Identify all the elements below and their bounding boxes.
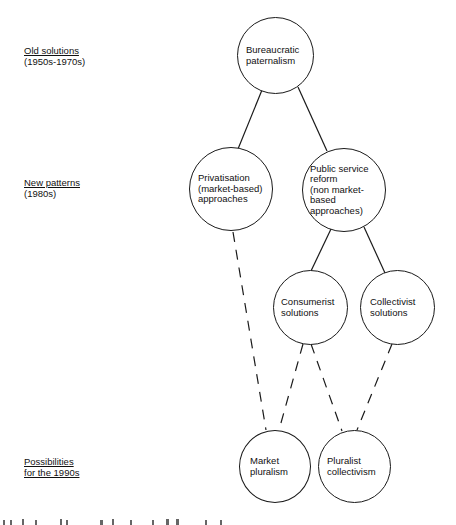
era-subtitle-future: for the 1990s bbox=[24, 467, 79, 478]
era-subtitle-old: (1950s-1970s) bbox=[24, 56, 85, 67]
edge-collectivist-pluralist-collectivism bbox=[357, 344, 392, 430]
node-pluralist-collectivism: Pluralist collectivism bbox=[318, 430, 391, 503]
node-label: Consumerist solutions bbox=[281, 297, 334, 318]
era-label-old: Old solutions (1950s-1970s) bbox=[24, 45, 85, 67]
node-label: Market pluralism bbox=[250, 456, 288, 477]
node-label: Bureaucratic paternalism bbox=[246, 45, 299, 66]
node-consumerist-solutions: Consumerist solutions bbox=[273, 270, 348, 345]
edge-consumerist-market-pluralism bbox=[279, 344, 303, 430]
era-title-future: Possibilities bbox=[24, 456, 79, 467]
node-public-service-reform: Public service reform (non market- based… bbox=[302, 148, 386, 232]
edge-privatisation-market-pluralism bbox=[233, 232, 266, 430]
node-label: Collectivist solutions bbox=[370, 297, 415, 318]
node-privatisation: Privatisation (market-based) approaches bbox=[189, 147, 273, 231]
era-label-future: Possibilities for the 1990s bbox=[24, 456, 79, 478]
node-label: Privatisation (market-based) approaches bbox=[198, 173, 262, 205]
edge-consumerist-pluralist-collectivism bbox=[311, 344, 342, 431]
cropped-caption-fragment bbox=[0, 517, 235, 525]
edge-public-reform-collectivist bbox=[364, 227, 385, 273]
node-label: Pluralist collectivism bbox=[327, 456, 376, 477]
node-market-pluralism: Market pluralism bbox=[239, 430, 311, 503]
node-bureaucratic-paternalism: Bureaucratic paternalism bbox=[237, 17, 314, 94]
era-title-old: Old solutions bbox=[24, 45, 85, 56]
node-label: Public service reform (non market- based… bbox=[310, 164, 369, 217]
edge-public-reform-consumerist bbox=[311, 229, 331, 271]
era-title-new: New patterns bbox=[24, 177, 80, 188]
era-label-new: New patterns (1980s) bbox=[24, 177, 80, 199]
node-collectivist-solutions: Collectivist solutions bbox=[360, 270, 435, 345]
edge-bureaucratic-public-reform bbox=[298, 87, 327, 151]
era-subtitle-new: (1980s) bbox=[24, 188, 80, 199]
edge-bureaucratic-privatisation bbox=[238, 90, 262, 149]
